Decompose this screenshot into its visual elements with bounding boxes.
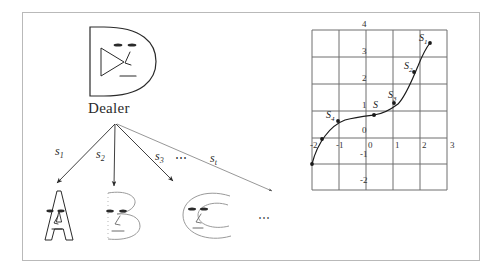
point-label-s-base: S [373, 99, 378, 110]
edge-label-s1-sub: 1 [60, 151, 64, 160]
xtick-0: 0 [368, 141, 373, 150]
point-label-s4: S4 [326, 110, 335, 123]
dealer-caption: Dealer [88, 101, 130, 116]
xtick-neg2: -2 [310, 141, 318, 150]
edge-label-st: st [210, 152, 217, 167]
ytick-neg1: -1 [360, 150, 368, 159]
figure-root: Dealer s1 s2 s3 ⋯ st ⋯ 4 3 2 1 0 -1 -2 -… [0, 0, 501, 276]
point-label-s3: S3 [388, 90, 397, 103]
edge-label-st-sub: t [215, 158, 217, 167]
edge-label-s3-sub: 3 [160, 156, 164, 165]
ytick-3: 3 [362, 47, 367, 56]
xtick-neg1: -1 [336, 141, 344, 150]
xtick-1: 1 [395, 141, 400, 150]
figure-border [22, 12, 480, 261]
ytick-neg2: -2 [360, 176, 368, 185]
ytick-2: 2 [362, 74, 367, 83]
point-label-s3-sub: 3 [393, 95, 397, 103]
edge-label-s2-sub: 2 [101, 154, 105, 163]
point-label-s: S [373, 100, 378, 110]
point-label-s1-sub: 1 [424, 38, 428, 46]
share-letters-ellipsis: ⋯ [258, 212, 272, 224]
ytick-0: 0 [362, 126, 367, 135]
edge-label-s1: s1 [55, 145, 64, 160]
point-label-s4-sub: 4 [331, 115, 335, 123]
xtick-3: 3 [450, 141, 455, 150]
point-label-s2: S2 [404, 61, 413, 74]
edge-ellipsis: ⋯ [175, 152, 189, 164]
edge-label-s2: s2 [96, 148, 105, 163]
point-label-s2-sub: 2 [409, 66, 413, 74]
ytick-4: 4 [362, 20, 367, 29]
xtick-2: 2 [422, 141, 427, 150]
edge-label-s3: s3 [155, 150, 164, 165]
point-label-s1: S1 [419, 33, 428, 46]
ytick-1: 1 [362, 101, 367, 110]
